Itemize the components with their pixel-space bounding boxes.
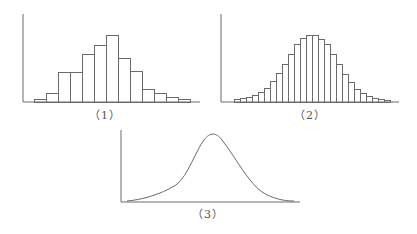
- histogram-1: [23, 14, 200, 103]
- histogram-bar: [119, 59, 131, 103]
- histogram-bar: [355, 90, 361, 103]
- histogram-bar: [325, 45, 331, 103]
- histogram-bar: [295, 45, 301, 103]
- density-curve-3: [121, 130, 300, 202]
- histogram-bar: [253, 96, 259, 103]
- histogram-bar: [107, 36, 119, 103]
- histogram-bar: [301, 39, 307, 103]
- caption-figure-2: （2）: [294, 106, 326, 122]
- histogram-bar: [59, 73, 71, 103]
- histogram-bar: [361, 94, 367, 103]
- histogram-bar: [143, 90, 155, 103]
- histogram-bar: [155, 94, 167, 103]
- histogram-bar: [307, 36, 313, 103]
- histogram-bar: [289, 55, 295, 103]
- histogram-bar: [259, 93, 265, 103]
- normal-curve: [127, 134, 294, 201]
- histogram-bar: [319, 40, 325, 103]
- histogram-bar: [343, 75, 349, 103]
- histogram-bar: [95, 46, 107, 103]
- histogram-bar: [71, 73, 83, 103]
- histogram-bar: [337, 65, 343, 103]
- figure-canvas: [0, 0, 417, 234]
- histogram-2: [221, 14, 399, 103]
- histogram-bar: [83, 55, 95, 103]
- histogram-bar: [283, 65, 289, 103]
- histogram-bar: [313, 36, 319, 103]
- histogram-bar: [271, 82, 277, 103]
- histogram-bar: [349, 83, 355, 103]
- histogram-bar: [277, 74, 283, 103]
- histogram-bar: [265, 89, 271, 103]
- histogram-bar: [131, 72, 143, 103]
- caption-figure-3: （3）: [192, 205, 224, 221]
- caption-figure-1: （1）: [89, 106, 121, 122]
- histogram-bar: [331, 55, 337, 103]
- histogram-bar: [47, 94, 59, 103]
